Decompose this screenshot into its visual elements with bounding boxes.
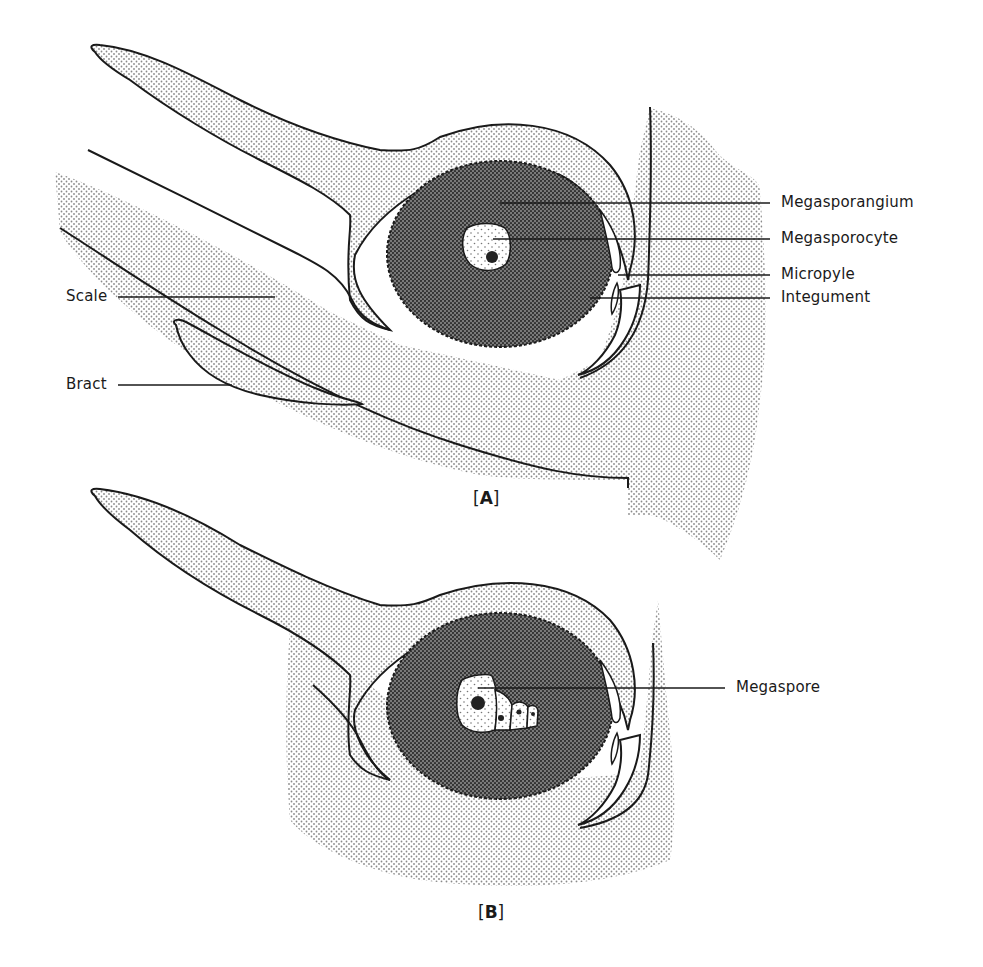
panel-letter-a: A	[480, 488, 493, 508]
panel-label-b: [B]	[478, 904, 504, 921]
megaspore-nucleus	[471, 696, 485, 710]
panel-letter-b: B	[485, 902, 498, 922]
megasporocyte-nucleus	[486, 251, 498, 263]
panel-b	[91, 489, 725, 886]
panel-label-a: [A]	[473, 490, 499, 507]
megaspore-3-nucleus	[517, 710, 522, 715]
label-scale: Scale	[66, 289, 107, 304]
megaspore-4	[527, 706, 538, 728]
panel-a	[55, 45, 770, 560]
bracket-open: [	[478, 902, 485, 922]
label-megasporangium: Megasporangium	[781, 195, 914, 210]
label-bract: Bract	[66, 377, 107, 392]
bracket-close: ]	[493, 488, 500, 508]
label-megasporocyte: Megasporocyte	[781, 231, 898, 246]
integument-lip-b	[611, 733, 618, 764]
bracket-close: ]	[498, 902, 505, 922]
megaspore-4-nucleus	[531, 712, 535, 716]
label-integument: Integument	[781, 290, 870, 305]
ovule-diagram	[0, 0, 983, 967]
bracket-open: [	[473, 488, 480, 508]
label-megaspore: Megaspore	[736, 680, 820, 695]
megasporocyte	[463, 224, 511, 271]
megaspore-2-nucleus	[498, 715, 504, 721]
label-micropyle: Micropyle	[781, 267, 855, 282]
megaspore-3	[510, 702, 528, 730]
